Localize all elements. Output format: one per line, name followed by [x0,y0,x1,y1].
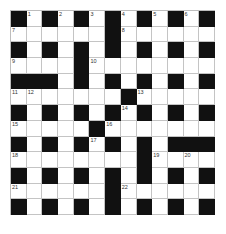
grid-cell[interactable]: 13 [137,89,153,105]
grid-cell[interactable] [152,184,168,200]
grid-cell[interactable] [121,152,137,168]
grid-cell[interactable] [58,168,74,184]
grid-cell[interactable] [168,152,184,168]
grid-cell[interactable] [152,168,168,184]
grid-cell[interactable] [58,184,74,200]
grid-cell[interactable] [152,199,168,215]
grid-cell[interactable] [199,121,215,137]
grid-cell[interactable] [121,168,137,184]
grid-cell[interactable] [184,184,200,200]
grid-cell[interactable]: 3 [89,11,105,27]
grid-cell[interactable] [152,121,168,137]
grid-cell[interactable] [89,105,105,121]
grid-cell[interactable]: 18 [11,152,27,168]
grid-cell[interactable] [74,184,90,200]
grid-cell[interactable] [184,58,200,74]
grid-cell[interactable]: 19 [152,152,168,168]
grid-cell[interactable]: 14 [121,105,137,121]
grid-cell[interactable] [152,27,168,43]
grid-cell[interactable]: 11 [11,89,27,105]
grid-cell[interactable] [89,89,105,105]
grid-cell[interactable]: 7 [11,27,27,43]
grid-cell[interactable] [89,184,105,200]
grid-cell[interactable] [74,89,90,105]
grid-cell[interactable] [137,184,153,200]
grid-cell[interactable] [27,184,43,200]
grid-cell[interactable] [58,58,74,74]
grid-cell[interactable] [184,74,200,90]
grid-cell[interactable]: 8 [121,27,137,43]
grid-cell[interactable] [137,121,153,137]
grid-cell[interactable]: 16 [105,121,121,137]
grid-cell[interactable] [121,137,137,153]
grid-cell[interactable] [199,152,215,168]
grid-cell[interactable] [152,89,168,105]
grid-cell[interactable]: 15 [11,121,27,137]
grid-cell[interactable] [27,168,43,184]
grid-cell[interactable] [121,58,137,74]
grid-cell[interactable] [121,42,137,58]
grid-cell[interactable] [74,27,90,43]
grid-cell[interactable] [199,27,215,43]
grid-cell[interactable] [58,121,74,137]
grid-cell[interactable] [152,137,168,153]
grid-cell[interactable] [199,58,215,74]
grid-cell[interactable] [27,152,43,168]
grid-cell[interactable] [89,152,105,168]
grid-cell[interactable]: 4 [121,11,137,27]
grid-cell[interactable] [137,27,153,43]
grid-cell[interactable] [42,121,58,137]
grid-cell[interactable] [89,27,105,43]
grid-cell[interactable] [168,121,184,137]
grid-cell[interactable] [58,89,74,105]
grid-cell[interactable]: 2 [58,11,74,27]
grid-cell[interactable]: 21 [11,184,27,200]
grid-cell[interactable] [27,58,43,74]
grid-cell[interactable] [184,168,200,184]
grid-cell[interactable] [27,27,43,43]
grid-cell[interactable]: 17 [89,137,105,153]
grid-cell[interactable] [27,42,43,58]
grid-cell[interactable] [152,42,168,58]
grid-cell[interactable] [89,168,105,184]
grid-cell[interactable] [58,74,74,90]
grid-cell[interactable] [27,199,43,215]
grid-cell[interactable] [184,42,200,58]
grid-cell[interactable] [199,184,215,200]
grid-cell[interactable]: 9 [11,58,27,74]
grid-cell[interactable] [58,27,74,43]
grid-cell[interactable]: 12 [27,89,43,105]
grid-cell[interactable] [168,184,184,200]
grid-cell[interactable]: 22 [121,184,137,200]
grid-cell[interactable] [184,89,200,105]
grid-cell[interactable] [58,105,74,121]
grid-cell[interactable] [152,58,168,74]
grid-cell[interactable]: 1 [27,11,43,27]
grid-cell[interactable] [42,27,58,43]
grid-cell[interactable] [42,58,58,74]
grid-cell[interactable] [74,152,90,168]
grid-cell[interactable] [105,152,121,168]
grid-cell[interactable] [168,58,184,74]
grid-cell[interactable] [105,89,121,105]
grid-cell[interactable] [89,74,105,90]
grid-cell[interactable] [121,74,137,90]
grid-cell[interactable]: 10 [89,58,105,74]
grid-cell[interactable] [42,152,58,168]
grid-cell[interactable] [105,58,121,74]
grid-cell[interactable] [74,121,90,137]
grid-cell[interactable] [184,105,200,121]
grid-cell[interactable] [89,199,105,215]
grid-cell[interactable] [184,27,200,43]
grid-cell[interactable] [121,199,137,215]
grid-cell[interactable] [121,121,137,137]
grid-cell[interactable] [89,42,105,58]
grid-cell[interactable] [184,121,200,137]
grid-cell[interactable] [168,27,184,43]
grid-cell[interactable] [58,152,74,168]
grid-cell[interactable] [152,74,168,90]
grid-cell[interactable] [27,137,43,153]
grid-cell[interactable] [168,89,184,105]
grid-cell[interactable]: 20 [184,152,200,168]
grid-cell[interactable] [58,137,74,153]
